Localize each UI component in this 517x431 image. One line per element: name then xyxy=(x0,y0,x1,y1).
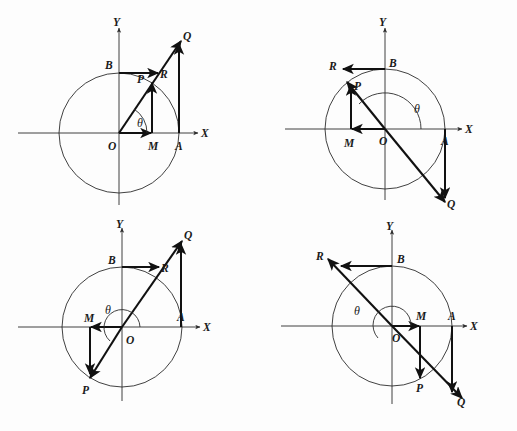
diagram-quadrant-1: X Y O A B M P Q R θ xyxy=(0,0,258,215)
label-point-M: M xyxy=(147,140,159,152)
label-point-P: P xyxy=(416,382,424,394)
label-point-M: M xyxy=(415,310,427,322)
label-point-P: P xyxy=(82,384,90,396)
diagram-quadrant-3: X Y O A B M P Q R θ xyxy=(0,216,258,431)
label-y-axis: Y xyxy=(116,218,124,230)
label-angle-theta: θ xyxy=(137,116,143,130)
label-point-O: O xyxy=(126,334,134,346)
label-x-axis: X xyxy=(200,127,209,139)
label-point-A: A xyxy=(447,310,456,322)
label-point-P: P xyxy=(137,73,145,85)
label-point-A: A xyxy=(176,311,185,323)
label-point-Q: Q xyxy=(183,30,191,42)
label-y-axis: Y xyxy=(113,16,121,28)
label-point-P: P xyxy=(354,80,362,92)
label-x-axis: X xyxy=(202,321,211,333)
diagram-quadrant-2: X Y O A B M P Q R θ xyxy=(259,0,517,215)
label-point-O: O xyxy=(379,135,387,147)
terminal-ray-OR xyxy=(328,259,392,326)
label-point-R: R xyxy=(159,68,168,80)
label-point-A: A xyxy=(440,135,449,147)
terminal-ray-OQ xyxy=(122,241,182,327)
figure-sheet: X Y O A B M P Q R θ xyxy=(0,0,517,431)
label-point-Q: Q xyxy=(184,229,192,241)
terminal-ray-OP xyxy=(90,327,122,378)
label-y-axis: Y xyxy=(379,16,387,28)
label-angle-theta: θ xyxy=(105,303,111,317)
diagram-quadrant-4: X Y O A B M P Q R θ xyxy=(259,216,517,431)
label-point-M: M xyxy=(83,312,95,324)
terminal-ray-OQ xyxy=(385,129,445,202)
label-point-B: B xyxy=(396,253,405,265)
label-x-axis: X xyxy=(469,320,478,332)
label-angle-theta: θ xyxy=(414,102,420,116)
label-point-B: B xyxy=(104,59,113,71)
label-point-B: B xyxy=(388,57,397,69)
label-point-R: R xyxy=(328,60,337,72)
label-y-axis: Y xyxy=(386,220,394,232)
label-angle-theta: θ xyxy=(354,304,360,318)
label-point-A: A xyxy=(174,140,183,152)
label-point-O: O xyxy=(108,140,116,152)
terminal-ray-OP xyxy=(347,82,385,129)
label-point-B: B xyxy=(107,254,116,266)
label-point-R: R xyxy=(160,262,169,274)
label-point-Q: Q xyxy=(447,198,455,210)
label-x-axis: X xyxy=(464,123,473,135)
label-point-M: M xyxy=(343,137,355,149)
label-point-Q: Q xyxy=(457,396,465,408)
terminal-ray-OQ xyxy=(119,41,181,133)
label-point-R: R xyxy=(315,250,324,262)
angle-arc-theta xyxy=(359,93,421,129)
label-point-O: O xyxy=(392,332,400,344)
